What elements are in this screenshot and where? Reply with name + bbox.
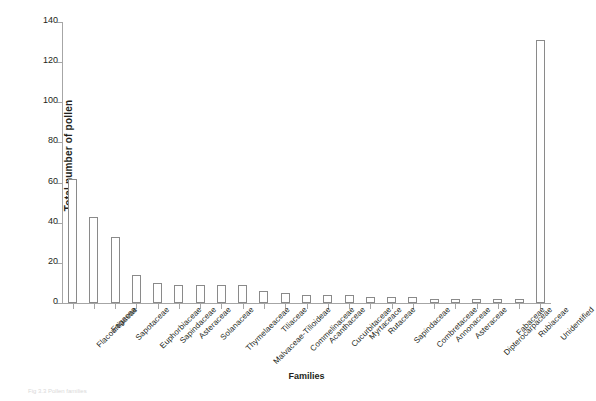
y-tick-label: 40 [48, 216, 58, 226]
bar [111, 237, 120, 303]
y-tick-label: 100 [43, 95, 58, 105]
y-tick-label: 120 [43, 55, 58, 65]
bar [387, 297, 396, 303]
bar [430, 299, 439, 303]
bar [408, 297, 417, 303]
x-category-label-text: Commelinaceae [309, 305, 357, 353]
bar [89, 217, 98, 303]
bar [536, 40, 545, 303]
x-category-label: Commelinaceae [309, 305, 357, 353]
y-tick-label: 0 [53, 296, 58, 306]
bar [196, 285, 205, 303]
y-tick-label: 140 [43, 15, 58, 25]
bar [493, 299, 502, 303]
y-tick-label: 20 [48, 256, 58, 266]
bar [281, 293, 290, 303]
bar [515, 299, 524, 303]
x-axis-category-labels: FlacourtiaceaeFagaceaSapotaceaeEuphorbia… [62, 305, 551, 375]
x-category-label: Fagacea [109, 305, 138, 334]
bar [174, 285, 183, 303]
figure-caption: Fig 3.3 Pollen families [28, 388, 87, 394]
plot-area: 020406080100120140 [62, 22, 551, 303]
bar [68, 179, 77, 303]
y-tick-label: 80 [48, 135, 58, 145]
bar [345, 295, 354, 303]
bar [472, 299, 481, 303]
bar [132, 275, 141, 303]
bar [238, 285, 247, 303]
bar [366, 297, 375, 303]
bar [217, 285, 226, 303]
bar [323, 295, 332, 303]
bar [302, 295, 311, 303]
bar [153, 283, 162, 303]
y-tick-label: 60 [48, 176, 58, 186]
x-category-label-text: Fagacea [109, 305, 138, 334]
x-axis-title: Families [62, 371, 551, 381]
bar [451, 299, 460, 303]
y-axis-line [62, 22, 63, 304]
bar [259, 291, 268, 303]
